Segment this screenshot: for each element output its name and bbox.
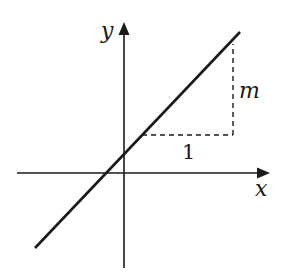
y-axis-label: y xyxy=(100,18,114,43)
slope-diagram: y x m 1 xyxy=(0,0,282,278)
sloped-line xyxy=(35,32,240,248)
x-axis-label: x xyxy=(255,176,268,201)
y-axis-arrow-icon xyxy=(119,22,130,35)
rise-label: m xyxy=(239,78,260,103)
run-label: 1 xyxy=(182,140,195,164)
